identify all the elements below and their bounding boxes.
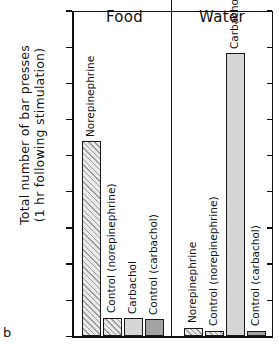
group-divider-line: [171, 0, 172, 338]
group-title-water: Water: [172, 9, 272, 26]
y-tick-225: [66, 10, 72, 11]
y-tick-25: [66, 300, 72, 301]
y-tick-right-50: [267, 263, 272, 264]
y-tick-150: [66, 119, 72, 120]
y-tick-100: [66, 191, 72, 192]
plot-area: 2252001751501251007550250 Norepinephrine…: [72, 11, 273, 338]
y-tick-right-25: [267, 300, 272, 301]
bar-label: Control (norepinephrine): [106, 184, 117, 313]
bar: [226, 53, 245, 336]
bar-label: Control (carbachol): [250, 225, 261, 326]
bar-label: Carbachol: [127, 261, 138, 314]
y-tick-right-75: [267, 227, 272, 228]
y-tick-right-150: [267, 119, 272, 120]
y-tick-175: [66, 83, 72, 84]
y-axis-line: [72, 11, 74, 338]
y-tick-50: [66, 263, 72, 264]
y-axis-label-line-1: Total number of bar presses: [17, 45, 32, 225]
bar: [82, 141, 101, 336]
bar-label: Norepinephrine: [85, 56, 96, 137]
bar: [247, 331, 266, 337]
bar: [205, 331, 224, 337]
bar: [145, 319, 164, 336]
x-axis-line: [72, 336, 273, 338]
bar: [103, 318, 122, 337]
y-tick-0: [66, 336, 72, 337]
plot-frame-right: [272, 11, 273, 338]
figure-panel-b: b Total number of bar presses (1 hr foll…: [0, 0, 279, 351]
bar-label: Norepinephrine: [187, 242, 198, 323]
bar-label: Control (carbachol): [148, 214, 159, 315]
y-axis-label: Total number of bar presses (1 hr follow…: [15, 10, 49, 260]
panel-letter: b: [3, 326, 11, 339]
y-tick-125: [66, 155, 72, 156]
y-tick-right-175: [267, 83, 272, 84]
y-axis-label-line-2: (1 hr following stimulation): [32, 48, 47, 223]
y-tick-75: [66, 227, 72, 228]
bar: [124, 318, 143, 336]
group-title-food: Food: [78, 9, 171, 26]
y-tick-right-200: [267, 47, 272, 48]
y-tick-right-100: [267, 191, 272, 192]
y-tick-200: [66, 47, 72, 48]
bar-label: Control (norepinephrine): [208, 197, 219, 326]
y-tick-right-125: [267, 155, 272, 156]
bar: [184, 328, 203, 337]
